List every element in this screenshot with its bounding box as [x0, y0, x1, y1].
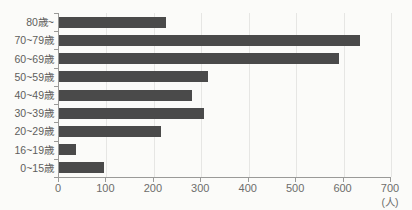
y-axis-tick: [54, 159, 58, 160]
x-tick-label-600: 600: [321, 182, 365, 194]
category-label-4: 40~49歳: [0, 89, 54, 101]
y-axis-tick: [54, 13, 58, 14]
x-tick-label-0: 0: [36, 182, 80, 194]
x-tick-label-300: 300: [178, 182, 222, 194]
category-label-3: 50~59歳: [0, 71, 54, 83]
category-label-2: 60~69歳: [0, 53, 54, 65]
y-axis-tick: [54, 122, 58, 123]
y-axis-tick: [54, 104, 58, 105]
bar-0: [59, 17, 166, 28]
x-tick-label-500: 500: [273, 182, 317, 194]
x-tick-label-100: 100: [83, 182, 127, 194]
plot-area: [58, 13, 391, 178]
bar-6: [59, 126, 161, 137]
x-axis-unit-label: (人): [368, 194, 412, 209]
bar-5: [59, 108, 204, 119]
y-axis-tick: [54, 49, 58, 50]
y-axis-tick: [54, 31, 58, 32]
gridline-x-700: [391, 13, 392, 177]
bar-2: [59, 53, 339, 64]
x-tick-label-700: 700: [368, 182, 412, 194]
category-label-1: 70~79歳: [0, 34, 54, 46]
y-axis-tick: [54, 68, 58, 69]
x-tick-label-200: 200: [131, 182, 175, 194]
category-label-0: 80歳~: [0, 16, 54, 28]
bar-8: [59, 162, 104, 173]
bar-1: [59, 35, 360, 46]
category-label-7: 16~19歳: [0, 144, 54, 156]
bar-7: [59, 144, 76, 155]
age-distribution-bar-chart: 80歳~70~79歳60~69歳50~59歳40~49歳30~39歳20~29歳…: [0, 0, 412, 210]
bar-4: [59, 90, 192, 101]
bar-3: [59, 71, 208, 82]
category-label-8: 0~15歳: [0, 162, 54, 174]
y-axis-tick: [54, 86, 58, 87]
x-tick-label-400: 400: [226, 182, 270, 194]
category-label-6: 20~29歳: [0, 125, 54, 137]
category-label-5: 30~39歳: [0, 107, 54, 119]
y-axis-tick: [54, 141, 58, 142]
